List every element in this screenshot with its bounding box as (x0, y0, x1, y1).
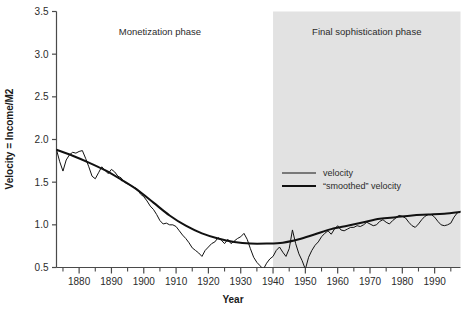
y-axis-title: Velocity = Income/M2 (4, 88, 15, 189)
x-tick-label: 1990 (424, 276, 447, 287)
chart-canvas: 0.51.01.52.02.53.03.51880189019001910192… (0, 0, 467, 311)
y-tick-label: 2.5 (35, 91, 49, 102)
x-tick-label: 1940 (262, 276, 285, 287)
shaded-phase-region (273, 12, 460, 268)
y-tick-label: 3.0 (35, 49, 49, 60)
x-tick-label: 1880 (68, 276, 91, 287)
x-axis-title: Year (222, 294, 243, 305)
x-tick-label: 1920 (197, 276, 220, 287)
annotation-monetization-phase: Monetization phase (119, 26, 201, 37)
y-tick-label: 1.0 (35, 219, 49, 230)
x-tick-label: 1980 (391, 276, 414, 287)
legend-label-smoothed-velocity: “smoothed” velocity (323, 181, 402, 191)
x-tick-label: 1890 (100, 276, 123, 287)
y-tick-label: 3.5 (35, 6, 49, 17)
x-tick-label: 1900 (133, 276, 156, 287)
x-tick-label: 1950 (294, 276, 317, 287)
x-tick-label: 1910 (165, 276, 188, 287)
legend-label-velocity: velocity (323, 168, 354, 178)
y-tick-label: 2.0 (35, 134, 49, 145)
y-tick-label: 1.5 (35, 177, 49, 188)
velocity-chart: 0.51.01.52.02.53.03.51880189019001910192… (0, 0, 467, 311)
y-tick-label: 0.5 (35, 262, 49, 273)
x-tick-label: 1970 (359, 276, 382, 287)
x-tick-label: 1930 (230, 276, 253, 287)
annotation-final-sophistication-phase: Final sophistication phase (312, 26, 421, 37)
x-tick-label: 1960 (327, 276, 350, 287)
